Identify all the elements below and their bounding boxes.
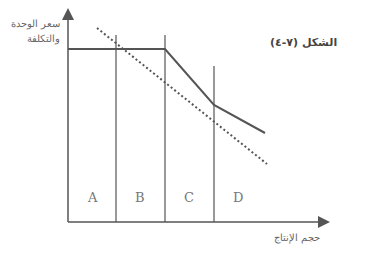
x-axis-label: حجم الإنتاج (274, 232, 320, 243)
region-a-label: A (88, 190, 97, 205)
region-c-label: C (184, 190, 194, 205)
region-d-label: D (233, 190, 243, 205)
y-axis-label-line2: والتكلفة (8, 31, 60, 46)
region-b-label: B (135, 190, 145, 205)
cost-line (97, 28, 267, 164)
y-axis-label: سعر الوحدة والتكلفة (8, 16, 60, 46)
y-axis-label-line1: سعر الوحدة (8, 16, 60, 31)
price-line (68, 49, 265, 133)
figure-title: الشكل (٧-٤) (270, 36, 337, 49)
